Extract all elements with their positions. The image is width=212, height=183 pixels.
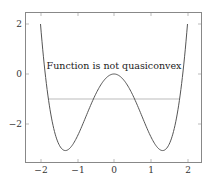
plot-frame	[26, 13, 202, 163]
y-tick-labels: 2 0 −2	[9, 19, 23, 129]
y-tick-label: 0	[16, 69, 22, 79]
y-tick-label: −2	[9, 119, 22, 129]
x-tick-labels: −2 −1 0 1 2	[34, 165, 191, 175]
x-tick-label: −2	[34, 165, 47, 175]
annotation-text: Function is not quasiconvex	[47, 60, 182, 71]
x-axis-ticks	[41, 13, 188, 162]
function-curve	[41, 24, 188, 151]
x-tick-label: −1	[71, 165, 84, 175]
chart: −2 −1 0 1 2 2 0 −2 Function is not quasi…	[0, 0, 212, 183]
x-tick-label: 1	[148, 165, 154, 175]
y-tick-label: 2	[16, 19, 22, 29]
x-tick-label: 2	[185, 165, 191, 175]
x-tick-label: 0	[111, 165, 117, 175]
